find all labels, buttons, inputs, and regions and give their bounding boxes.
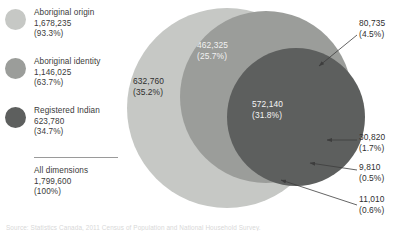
source-note: Source: Statistics Canada, 2011 Census o… (6, 224, 336, 231)
venn-circle-registered-indian (227, 48, 365, 186)
callout-value-9810: 9,810 (359, 162, 384, 173)
callout-80735: 80,735 (4.5%) (359, 18, 385, 40)
callout-percent-9810: (0.5%) (359, 173, 384, 184)
venn-diagram-figure: Aboriginal origin 1,678,235 (93.3%) Abor… (0, 0, 398, 232)
venn-label-aboriginal-identity-only: 462,325 (25.7%) (197, 40, 228, 62)
venn-value-aboriginal-origin-only: 632,760 (133, 76, 164, 87)
callout-value-30820: 30,820 (359, 132, 385, 143)
venn-percent-registered-indian-core: (31.8%) (252, 110, 283, 121)
callout-11010: 11,010 (0.6%) (359, 194, 385, 216)
venn-percent-aboriginal-identity-only: (25.7%) (197, 51, 228, 62)
callout-percent-30820: (1.7%) (359, 143, 385, 154)
venn-value-aboriginal-identity-only: 462,325 (197, 40, 228, 51)
callout-percent-80735: (4.5%) (359, 29, 385, 40)
callout-value-80735: 80,735 (359, 18, 385, 29)
callout-9810: 9,810 (0.5%) (359, 162, 384, 184)
venn-percent-aboriginal-origin-only: (35.2%) (133, 87, 164, 98)
venn-label-registered-indian-core: 572,140 (31.8%) (252, 99, 283, 121)
venn-circles: 632,760 (35.2%) 462,325 (25.7%) 572,140 … (0, 0, 398, 232)
venn-label-aboriginal-origin-only: 632,760 (35.2%) (133, 76, 164, 98)
callout-30820: 30,820 (1.7%) (359, 132, 385, 154)
venn-value-registered-indian-core: 572,140 (252, 99, 283, 110)
callout-value-11010: 11,010 (359, 194, 385, 205)
callout-percent-11010: (0.6%) (359, 205, 385, 216)
